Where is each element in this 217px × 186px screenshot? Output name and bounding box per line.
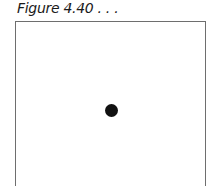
figure-caption: Figure 4.40 . . . (17, 0, 118, 16)
center-dot (105, 104, 118, 117)
